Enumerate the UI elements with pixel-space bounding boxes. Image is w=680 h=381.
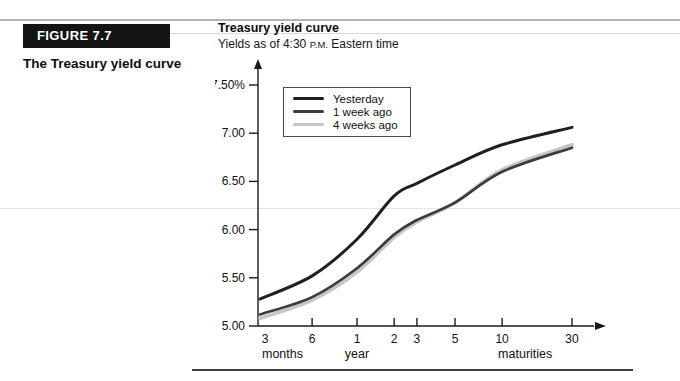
y-tick-label: 7.50% [215,78,245,92]
legend-line-swatch [293,123,324,126]
legend-line-swatch [293,97,324,100]
x-tick-label: 6 [309,332,316,346]
chart-subtitle-prefix: Yields as of 4:30 [218,37,310,51]
y-axis-arrow-icon [254,59,262,69]
legend-item-yesterday: Yesterday [293,92,398,105]
chart-subtitle-suffix: Eastern time [328,37,399,51]
y-tick-label: 6.50 [222,174,246,188]
chart-subtitle: Yields as of 4:30 P.M. Eastern time [218,37,399,51]
x-tick-label: 10 [495,332,509,346]
x-tick-label: 5 [452,332,459,346]
x-axis-sublabel: months [262,347,303,361]
x-tick-label: 2 [391,332,398,346]
x-tick-label: 3 [414,332,421,346]
bottom-rule [192,369,633,371]
y-tick-label: 6.00 [222,223,246,237]
figure-caption: The Treasury yield curve [23,56,181,71]
chart-title: Treasury yield curve [218,21,399,35]
y-tick-label: 7.00 [222,126,246,140]
yield-curve-chart: 7.50%7.006.506.005.505.003612351030month… [215,55,625,367]
x-axis-arrow-icon [595,322,606,330]
curve-yesterday [260,127,572,299]
legend-label: Yesterday [333,93,384,105]
curve-4-weeks-ago [260,145,572,318]
legend-label: 1 week ago [333,106,392,118]
x-tick-label: 30 [565,332,579,346]
x-tick-label: 1 [354,332,361,346]
legend-label: 4 weeks ago [333,119,398,131]
x-axis-sublabel: maturities [498,347,552,361]
x-axis-sublabel: year [345,347,369,361]
chart-canvas: 7.50%7.006.506.005.505.003612351030month… [215,55,625,367]
legend-line-swatch [293,110,324,113]
chart-subtitle-pm: P.M. [310,39,328,50]
legend-item-4-weeks-ago: 4 weeks ago [293,118,398,131]
y-tick-label: 5.50 [222,271,246,285]
figure-label: FIGURE 7.7 [37,28,112,43]
y-tick-label: 5.00 [222,319,246,333]
curve-1-week-ago [260,148,572,315]
chart-legend: Yesterday1 week ago4 weeks ago [283,87,411,137]
figure-label-box: FIGURE 7.7 [23,24,170,48]
x-tick-label: 3 [262,332,269,346]
legend-item-1-week-ago: 1 week ago [293,105,398,118]
chart-header: Treasury yield curve Yields as of 4:30 P… [218,21,399,51]
